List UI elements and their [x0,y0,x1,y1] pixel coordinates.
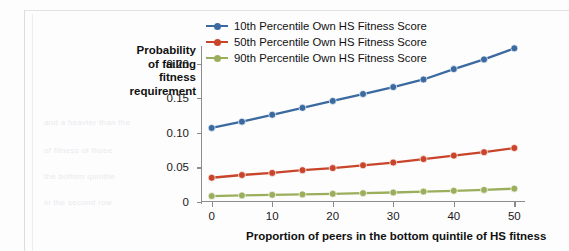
data-point[interactable] [420,188,427,195]
data-point[interactable] [208,174,215,181]
data-point[interactable] [299,167,306,174]
x-tick-5: 50 [514,202,515,207]
legend-marker-icon [206,20,228,32]
legend-item-label: 50th Percentile Own HS Fitness Score [234,36,427,48]
x-tick-label-4: 40 [447,210,460,222]
data-point[interactable] [511,45,518,52]
data-point[interactable] [511,145,518,152]
data-point[interactable] [450,187,457,194]
data-point[interactable] [238,192,245,199]
ghost-text-line-1: and a heavier than the [44,118,130,127]
data-point[interactable] [269,111,276,118]
x-tick-4: 40 [454,202,455,207]
data-point[interactable] [450,66,457,73]
data-point[interactable] [238,118,245,125]
x-tick-3: 30 [393,202,394,207]
y-tick-label-2: 0.10 [167,127,189,139]
data-point[interactable] [390,189,397,196]
x-tick-label-0: 0 [208,210,214,222]
chart-legend: 10th Percentile Own HS Fitness Score50th… [206,19,427,65]
data-point[interactable] [269,169,276,176]
x-tick-label-2: 20 [326,210,339,222]
y-tick-0: 0 [197,202,202,203]
data-point[interactable] [420,76,427,83]
page-frame-top-rule [24,10,569,11]
series-2 [208,185,518,199]
data-point[interactable] [299,191,306,198]
ghost-text-line-4: in the second row [44,198,112,207]
legend-item-1[interactable]: 50th Percentile Own HS Fitness Score [206,35,427,49]
data-point[interactable] [238,172,245,179]
data-point[interactable] [269,191,276,198]
data-point[interactable] [329,190,336,197]
data-point[interactable] [420,156,427,163]
page-frame-inner-rule [32,14,33,251]
y-axis-title-line-1: Probability [110,44,196,58]
x-tick-label-3: 30 [387,210,400,222]
x-tick-2: 20 [333,202,334,207]
data-point[interactable] [360,91,367,98]
data-point[interactable] [390,84,397,91]
y-tick-label-1: 0.05 [167,161,189,173]
data-point[interactable] [450,152,457,159]
x-tick-1: 10 [272,202,273,207]
data-point[interactable] [360,190,367,197]
data-point[interactable] [299,104,306,111]
figure-canvas: and a heavier than the of fitness of tho… [0,0,569,251]
y-axis-title: Probability of failing fitness requireme… [110,44,196,98]
x-axis-title: Proportion of peers in the bottom quinti… [246,230,546,242]
y-axis-title-line-3: fitness [110,71,196,85]
data-point[interactable] [329,165,336,172]
legend-item-0[interactable]: 10th Percentile Own HS Fitness Score [206,19,427,33]
x-tick-label-1: 10 [266,210,279,222]
x-tick-0: 0 [212,202,213,207]
series-1 [208,145,518,182]
data-point[interactable] [360,162,367,169]
legend-marker-icon [206,36,228,48]
page-frame-left-rule [24,10,25,251]
data-point[interactable] [208,124,215,131]
ghost-text-line-3: the bottom quintile [44,172,115,181]
legend-marker-icon [206,52,228,64]
series-layer [202,52,524,202]
legend-item-label: 90th Percentile Own HS Fitness Score [234,52,427,64]
x-tick-label-5: 50 [508,210,521,222]
y-tick-label-0: 0 [183,196,189,208]
ghost-text-line-2: of fitness of those [44,146,112,155]
data-point[interactable] [390,159,397,166]
data-point[interactable] [481,149,488,156]
data-point[interactable] [511,185,518,192]
data-point[interactable] [329,97,336,104]
data-point[interactable] [481,186,488,193]
data-point[interactable] [208,193,215,200]
data-point[interactable] [481,56,488,63]
y-tick-label-4: 0.20 [167,58,189,70]
y-tick-label-3: 0.15 [167,92,189,104]
legend-item-label: 10th Percentile Own HS Fitness Score [234,20,427,32]
plot-area: 00.050.100.150.20 01020304050 [202,52,524,202]
legend-item-2[interactable]: 90th Percentile Own HS Fitness Score [206,51,427,65]
